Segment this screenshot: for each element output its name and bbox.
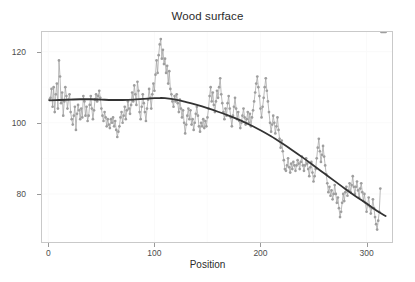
- x-tick-mark: [367, 243, 368, 247]
- x-tick-mark: [260, 243, 261, 247]
- x-tick-label: 200: [240, 248, 280, 258]
- x-tick-mark: [154, 243, 155, 247]
- x-axis-title: Position: [0, 259, 415, 270]
- x-tick-label: 100: [134, 248, 174, 258]
- x-tick-mark: [48, 243, 49, 247]
- x-axis: 0100200300: [0, 0, 415, 282]
- x-tick-label: 300: [347, 248, 387, 258]
- chart-figure: Wood surface 12010080 0100200300 Positio…: [0, 0, 415, 282]
- x-tick-label: 0: [28, 248, 68, 258]
